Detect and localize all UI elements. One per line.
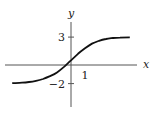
chart: 3−21 x y xyxy=(0,0,155,119)
y-tick-label: 3 xyxy=(58,31,65,44)
x-tick-label: 1 xyxy=(82,69,89,82)
y-tick-label: −2 xyxy=(49,78,65,91)
x-axis-label: x xyxy=(143,58,150,71)
y-axis-label: y xyxy=(67,7,75,20)
